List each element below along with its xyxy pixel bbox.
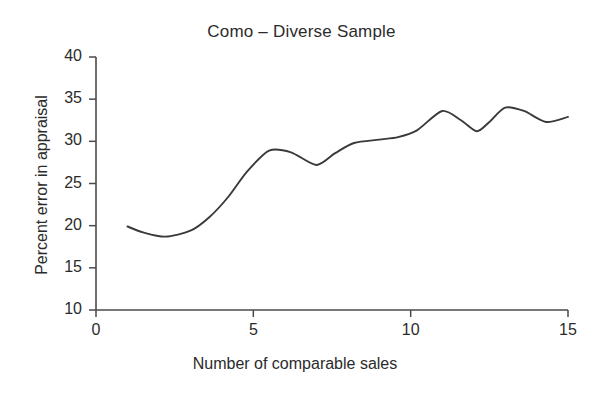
x-tick-label: 5 (236, 321, 270, 339)
data-line-series-1 (127, 107, 568, 236)
x-tick-label: 15 (551, 321, 585, 339)
y-tick-label: 20 (48, 216, 82, 234)
axis-lines (96, 57, 568, 310)
y-tick-label: 35 (48, 89, 82, 107)
plot-area (0, 0, 603, 402)
y-tick-label: 10 (48, 300, 82, 318)
y-tick-label: 40 (48, 47, 82, 65)
chart-figure: Como – Diverse Sample Percent error in a… (0, 0, 603, 402)
y-tick-label: 15 (48, 258, 82, 276)
x-axis-ticks (96, 310, 568, 317)
y-axis-ticks (89, 57, 96, 310)
y-tick-label: 30 (48, 131, 82, 149)
x-tick-label: 0 (79, 321, 113, 339)
x-tick-label: 10 (394, 321, 428, 339)
y-tick-label: 25 (48, 174, 82, 192)
